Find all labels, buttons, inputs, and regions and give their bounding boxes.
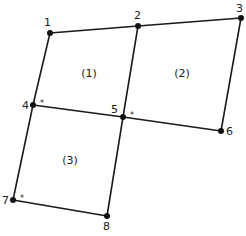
edge-4-5 <box>33 105 123 117</box>
star-marker-node-7: * <box>20 194 24 203</box>
edge-1-2 <box>50 26 138 33</box>
node-label-3: 3 <box>236 2 243 15</box>
edge-2-5 <box>123 26 138 117</box>
node-7-dot-icon <box>10 197 16 203</box>
node-label-1: 1 <box>44 16 51 29</box>
edge-1-4 <box>33 33 50 105</box>
node-label-7: 7 <box>2 194 9 207</box>
node-label-4: 4 <box>22 99 29 112</box>
element-label-1: (1) <box>81 67 97 80</box>
edge-3-6 <box>221 18 241 131</box>
node-5-dot-icon <box>120 114 126 120</box>
node-label-5: 5 <box>111 103 118 116</box>
edge-4-7 <box>13 105 33 200</box>
node-label-2: 2 <box>134 9 141 22</box>
star-marker-node-4: * <box>40 99 44 108</box>
node-3-dot-icon <box>238 15 244 21</box>
star-marker-node-5: * <box>130 111 134 120</box>
finite-element-mesh-diagram: 12345678 (1)(2)(3) *** <box>0 0 246 236</box>
edge-5-8 <box>107 117 123 216</box>
node-2-dot-icon <box>135 23 141 29</box>
node-6-dot-icon <box>218 128 224 134</box>
node-4-dot-icon <box>30 102 36 108</box>
node-1-dot-icon <box>47 30 53 36</box>
mesh-edges <box>13 18 241 216</box>
element-label-3: (3) <box>62 154 78 167</box>
edge-5-6 <box>123 117 221 131</box>
edge-7-8 <box>13 200 107 216</box>
node-8-dot-icon <box>104 213 110 219</box>
node-label-8: 8 <box>103 220 110 233</box>
node-label-6: 6 <box>226 125 233 138</box>
element-label-2: (2) <box>174 67 190 80</box>
edge-2-3 <box>138 18 241 26</box>
